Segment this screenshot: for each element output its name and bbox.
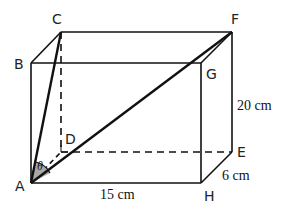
measurement-height: 20 cm (237, 98, 272, 113)
measurement-width: 6 cm (222, 168, 250, 183)
vertex-label-B: B (14, 56, 24, 72)
vertex-label-C: C (52, 11, 62, 27)
angle-label-theta: θ (37, 159, 43, 173)
vertex-label-D: D (65, 131, 76, 147)
diagonal-AC (31, 32, 61, 183)
cuboid-diagram: C F B G D E A H θ 20 cm 6 cm 15 cm (0, 0, 291, 214)
vertex-label-A: A (15, 178, 25, 194)
vertex-label-G: G (206, 66, 217, 82)
vertex-label-H: H (204, 188, 215, 204)
vertex-label-F: F (231, 11, 239, 27)
measurement-length: 15 cm (100, 187, 135, 202)
vertex-label-E: E (237, 144, 246, 160)
